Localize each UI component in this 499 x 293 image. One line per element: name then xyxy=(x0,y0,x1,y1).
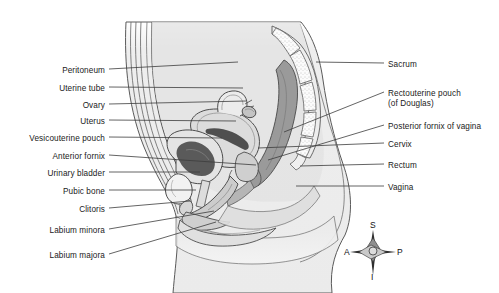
label-cervix-text: Cervix xyxy=(388,140,412,149)
label-urinary-bladder-text: Urinary bladder xyxy=(48,169,105,178)
label-rectouterine-pouch: Rectouterine pouch (of Douglas) xyxy=(388,89,461,109)
label-vagina-text: Vagina xyxy=(388,183,414,192)
label-posterior-fornix-text: Posterior fornix of vagina xyxy=(388,122,481,131)
label-ovary: Ovary xyxy=(83,101,105,111)
label-clitoris-text: Clitoris xyxy=(79,205,105,214)
label-rectouterine-pouch-text: Rectouterine pouch xyxy=(388,89,461,98)
label-uterine-tube: Uterine tube xyxy=(59,84,105,94)
label-uterus: Uterus xyxy=(80,117,105,127)
orientation-compass xyxy=(350,230,396,275)
label-sacrum-text: Sacrum xyxy=(388,60,417,69)
sagittal-section-illustration xyxy=(0,0,499,293)
label-labium-majora-text: Labium majora xyxy=(50,251,105,260)
label-vagina: Vagina xyxy=(388,183,414,193)
label-labium-majora: Labium majora xyxy=(50,251,105,261)
compass-anterior-label: A xyxy=(344,247,350,257)
pubic-bone xyxy=(165,174,192,204)
label-rectum-text: Rectum xyxy=(388,161,417,170)
label-urinary-bladder: Urinary bladder xyxy=(48,169,105,179)
label-ovary-text: Ovary xyxy=(83,101,105,110)
label-clitoris: Clitoris xyxy=(79,205,105,215)
label-cervix: Cervix xyxy=(388,140,412,150)
compass-posterior-label: P xyxy=(397,247,403,257)
compass-inferior-label: I xyxy=(371,272,373,282)
label-vesicouterine-pouch: Vesicouterine pouch xyxy=(29,134,105,144)
label-rectum: Rectum xyxy=(388,161,417,171)
anatomy-diagram: Peritoneum Uterine tube Ovary Uterus Ves… xyxy=(0,0,499,293)
label-uterus-text: Uterus xyxy=(80,117,105,126)
label-peritoneum: Peritoneum xyxy=(62,66,105,76)
label-uterine-tube-text: Uterine tube xyxy=(59,84,105,93)
label-rectouterine-pouch-subtext: (of Douglas) xyxy=(388,99,461,109)
label-pubic-bone: Pubic bone xyxy=(63,187,105,197)
label-vesicouterine-pouch-text: Vesicouterine pouch xyxy=(29,134,105,143)
label-labium-minora-text: Labium minora xyxy=(50,226,105,235)
compass-superior-label: S xyxy=(370,220,376,230)
label-anterior-fornix-text: Anterior fornix xyxy=(53,152,105,161)
label-anterior-fornix: Anterior fornix xyxy=(53,152,105,162)
label-sacrum: Sacrum xyxy=(388,60,417,70)
label-posterior-fornix: Posterior fornix of vagina xyxy=(388,122,481,132)
label-peritoneum-text: Peritoneum xyxy=(62,66,105,75)
label-pubic-bone-text: Pubic bone xyxy=(63,187,105,196)
label-labium-minora: Labium minora xyxy=(50,226,105,236)
